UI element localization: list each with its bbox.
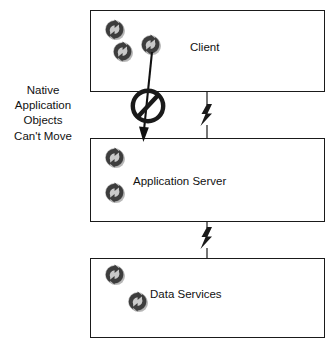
down-arrow-icon bbox=[139, 52, 152, 142]
diagram-canvas: Native Application Objects Can't Move Cl… bbox=[0, 0, 335, 347]
blocked-flow-layer bbox=[0, 0, 335, 347]
